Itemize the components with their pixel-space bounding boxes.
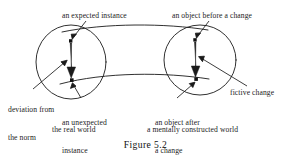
label-deviation-line-1: deviation from (8, 105, 54, 114)
leader-object-before-head (195, 33, 200, 38)
label-object-before-change: an object before a change (172, 11, 252, 20)
leader-object-after (177, 84, 193, 98)
right-change-arrow (191, 42, 200, 77)
leader-fictive-change (201, 58, 247, 86)
label-expected-instance: an expected instance (62, 11, 127, 20)
left-change-group (67, 39, 76, 82)
label-real-world: the real world (52, 125, 96, 134)
leader-expected-instance-head (71, 34, 76, 39)
left-top-dot (69, 39, 72, 42)
figure-5-2: an expected instance an object before a … (0, 0, 291, 157)
label-mentally-constructed-world: a mentally constructed world (147, 125, 238, 134)
right-bottom-dot (194, 77, 198, 81)
label-fictive-change: fictive change (230, 88, 274, 97)
mental-world-circle (164, 25, 236, 95)
right-change-group (191, 38, 200, 81)
left-change-arrow (67, 43, 76, 78)
left-bottom-dot (70, 78, 74, 82)
figure-caption: Figure 5.2 (0, 139, 291, 150)
band-upper-curve (62, 25, 208, 32)
leader-deviation-from-norm (33, 62, 65, 89)
band-lower-curve (60, 74, 209, 84)
leader-fictive-change-head (199, 56, 205, 62)
